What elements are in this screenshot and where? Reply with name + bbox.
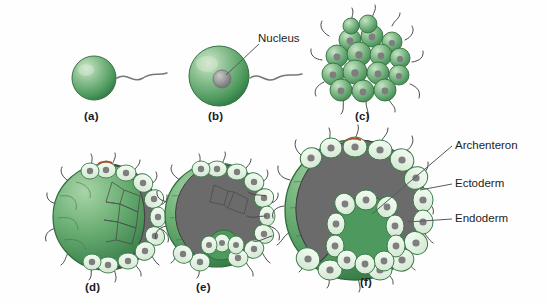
callout-ectoderm: Ectoderm xyxy=(455,177,504,189)
panel-letter-d: (d) xyxy=(85,281,100,293)
panel-letter-a: (a) xyxy=(84,110,99,122)
highlight-b xyxy=(196,56,218,72)
panel-e-graphic xyxy=(155,152,279,278)
panel-c-graphic xyxy=(311,5,423,118)
panel-b-graphic xyxy=(189,44,302,106)
panel-letter-b: (b) xyxy=(208,110,223,122)
figure-canvas xyxy=(0,0,548,306)
callout-nucleus: Nucleus xyxy=(258,32,300,44)
panel-d-graphic xyxy=(45,153,168,282)
panel-letter-c: (c) xyxy=(355,110,370,122)
panel-letter-f: (f) xyxy=(360,276,372,288)
highlight-a xyxy=(78,64,94,76)
embryo-development-figure: Nucleus Archenteron Ectoderm Endoderm (a… xyxy=(0,0,548,306)
callout-archenteron: Archenteron xyxy=(455,139,518,151)
flagellum-b xyxy=(250,74,302,80)
callout-endoderm: Endoderm xyxy=(455,212,508,224)
panel-letter-e: (e) xyxy=(196,281,211,293)
egg-cell-a xyxy=(72,56,116,100)
panel-f-graphic xyxy=(247,125,434,292)
panel-a-graphic xyxy=(72,56,167,100)
flagellum-a xyxy=(117,73,167,80)
